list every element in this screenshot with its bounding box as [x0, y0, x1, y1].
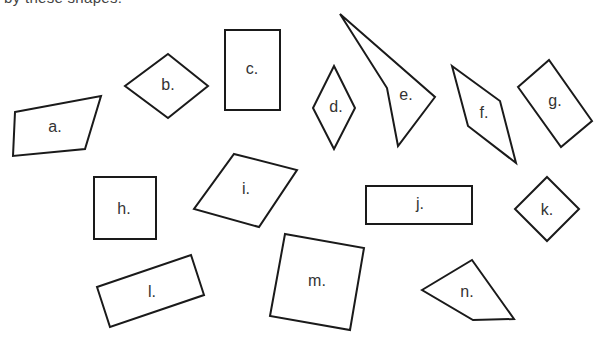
shape-k: k.: [515, 177, 579, 241]
shape-b: b.: [125, 54, 208, 118]
shape-m: m.: [270, 234, 364, 330]
shape-h: h.: [94, 177, 156, 239]
shape-label: i.: [242, 180, 250, 197]
shape-a: a.: [13, 96, 101, 156]
shape-j: j.: [366, 186, 472, 224]
shapes-diagram: a.b.c.d.e.f.g.h.i.j.k.l.m.n.: [0, 0, 598, 345]
shape-label: j.: [415, 195, 424, 212]
shape-f: f.: [452, 66, 516, 163]
shape-label: d.: [329, 98, 342, 115]
shape-c: c.: [225, 30, 280, 110]
shape-label: e.: [399, 86, 412, 103]
shape-i: i.: [194, 154, 297, 227]
shape-label: m.: [308, 272, 326, 289]
concave-quadrilateral-outline: [340, 14, 435, 146]
shape-label: l.: [148, 283, 156, 300]
shape-d: d.: [313, 66, 355, 149]
shape-label: g.: [548, 92, 561, 109]
shape-label: k.: [541, 201, 553, 218]
shape-label: a.: [48, 118, 61, 135]
shape-label: f.: [480, 104, 489, 121]
shape-g: g.: [518, 60, 592, 147]
shape-n: n.: [422, 260, 514, 320]
shape-label: n.: [460, 283, 473, 300]
shape-label: c.: [246, 60, 258, 77]
shape-label: b.: [161, 76, 174, 93]
shape-l: l.: [97, 255, 204, 327]
shape-label: h.: [117, 200, 130, 217]
shape-e: e.: [340, 14, 435, 146]
